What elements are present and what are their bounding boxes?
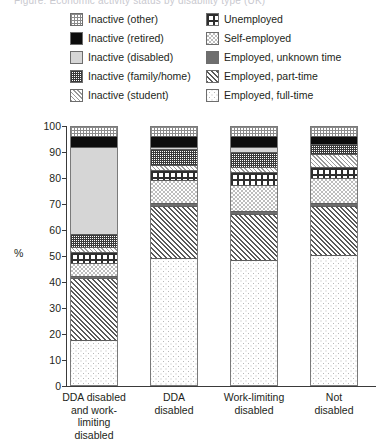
y-tick-label: 50 [31, 250, 61, 262]
bar-segment[interactable] [231, 127, 277, 137]
x-axis-line [66, 386, 376, 387]
y-tick-label: 100 [31, 120, 61, 132]
bar-segment[interactable] [231, 153, 277, 168]
bar-2[interactable] [150, 126, 198, 386]
bar-segment[interactable] [311, 145, 357, 155]
bar-segment[interactable] [71, 264, 117, 277]
bar-segment[interactable] [151, 127, 197, 137]
y-tick-mark [62, 308, 66, 309]
bar-segment[interactable] [151, 171, 197, 181]
y-tick-mark [62, 386, 66, 387]
bar-segment[interactable] [71, 341, 117, 385]
y-tick-mark [62, 256, 66, 257]
y-tick-label: 10 [31, 354, 61, 366]
x-axis-label-4: Notdisabled [288, 391, 380, 416]
x-axis-label-line: and work- [48, 404, 140, 417]
y-tick-mark [62, 152, 66, 153]
x-axis-label-line: disabled [208, 404, 300, 417]
y-tick-label: 70 [31, 198, 61, 210]
bar-3[interactable] [230, 126, 278, 386]
bar-segment[interactable] [231, 215, 277, 261]
bar-1[interactable] [70, 126, 118, 386]
bar-segment[interactable] [311, 155, 357, 168]
bar-4[interactable] [310, 126, 358, 386]
y-axis-title: % [14, 247, 23, 259]
y-tick-label: 40 [31, 276, 61, 288]
y-tick-mark [62, 282, 66, 283]
y-tick-mark [62, 178, 66, 179]
x-axis-label-3: Work-limitingdisabled [208, 391, 300, 416]
bar-segment[interactable] [311, 127, 357, 137]
bar-segment[interactable] [231, 173, 277, 186]
bar-segment[interactable] [231, 137, 277, 147]
bar-segment[interactable] [151, 137, 197, 147]
y-tick-mark [62, 334, 66, 335]
bar-segment[interactable] [311, 207, 357, 256]
y-tick-label: 90 [31, 146, 61, 158]
x-axis-label-1: DDA disabledand work-limitingdisabled [48, 391, 140, 441]
bar-segment[interactable] [311, 256, 357, 385]
y-tick-mark [62, 360, 66, 361]
bar-segment[interactable] [151, 181, 197, 204]
x-axis-label-line: Not [288, 391, 380, 404]
y-tick-mark [62, 230, 66, 231]
bar-segment[interactable] [311, 168, 357, 178]
bar-segment[interactable] [71, 148, 117, 236]
y-tick-mark [62, 126, 66, 127]
bar-segment[interactable] [231, 186, 277, 212]
x-axis-label-line: disabled [288, 404, 380, 417]
bar-segment[interactable] [71, 127, 117, 137]
y-tick-label: 80 [31, 172, 61, 184]
stacked-bar-chart: % 1009080706050403020100 DDA disabledand… [0, 0, 385, 443]
x-axis-label-2: DDAdisabled [128, 391, 220, 416]
bar-segment[interactable] [231, 261, 277, 385]
y-tick-label: 60 [31, 224, 61, 236]
y-axis-line [66, 126, 67, 387]
x-axis-label-line: DDA disabled [48, 391, 140, 404]
y-tick-label: 30 [31, 302, 61, 314]
y-tick-mark [62, 204, 66, 205]
bar-segment[interactable] [311, 179, 357, 205]
y-tick-label: 20 [31, 328, 61, 340]
bar-segment[interactable] [71, 235, 117, 248]
x-axis-label-line: DDA [128, 391, 220, 404]
x-axis-label-line: disabled [48, 429, 140, 442]
x-axis-label-line: Work-limiting [208, 391, 300, 404]
bar-segment[interactable] [71, 279, 117, 341]
bar-segment[interactable] [311, 137, 357, 145]
x-axis-label-line: disabled [128, 404, 220, 417]
bar-segment[interactable] [71, 137, 117, 147]
x-axis-label-line: limiting [48, 416, 140, 429]
bar-segment[interactable] [151, 207, 197, 259]
bar-segment[interactable] [151, 150, 197, 165]
bar-segment[interactable] [71, 253, 117, 263]
bar-segment[interactable] [151, 259, 197, 385]
